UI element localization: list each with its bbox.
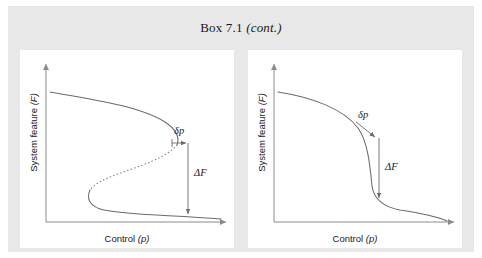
y-axis-label-text: System feature [28,108,39,172]
y-axis-label-text: System feature [256,108,267,172]
fold-catastrophe-panel: δp ΔF Control (p) System feature (F) [20,50,234,248]
x-axis-label-text: Control [333,233,364,244]
x-axis-label: Control (p) [20,233,234,244]
upper-stable-branch [50,92,178,145]
box-title-main: Box 7.1 [200,20,243,35]
box-container: Box 7.1 (cont.) [8,6,474,252]
box-title-continuation: (cont.) [246,20,282,35]
y-axis-label: System feature (F) [256,58,267,208]
x-axis-label-var: (p) [138,233,150,244]
x-axis-label-var: (p) [366,233,378,244]
delta-F-label: ΔF [193,167,207,178]
delta-p-label: δp [174,125,184,136]
figure-screenshot: Box 7.1 (cont.) [0,0,482,258]
x-axis-label-text: Control [105,233,136,244]
box-title: Box 7.1 (cont.) [8,20,474,36]
steep-continuous-plot: δp ΔF [248,50,462,248]
x-axis-label: Control (p) [248,233,462,244]
fold-catastrophe-plot: δp ΔF [20,50,234,248]
y-axis-label-var: (F) [28,93,39,105]
y-axis-label: System feature (F) [28,58,39,208]
delta-F-label: ΔF [384,161,398,172]
steep-continuous-panel: δp ΔF Control (p) System feature (F) [248,50,462,248]
delta-p-label: δp [358,109,368,120]
lower-stable-branch [89,190,221,219]
y-axis-label-var: (F) [256,93,267,105]
middle-unstable-branch [90,145,177,190]
